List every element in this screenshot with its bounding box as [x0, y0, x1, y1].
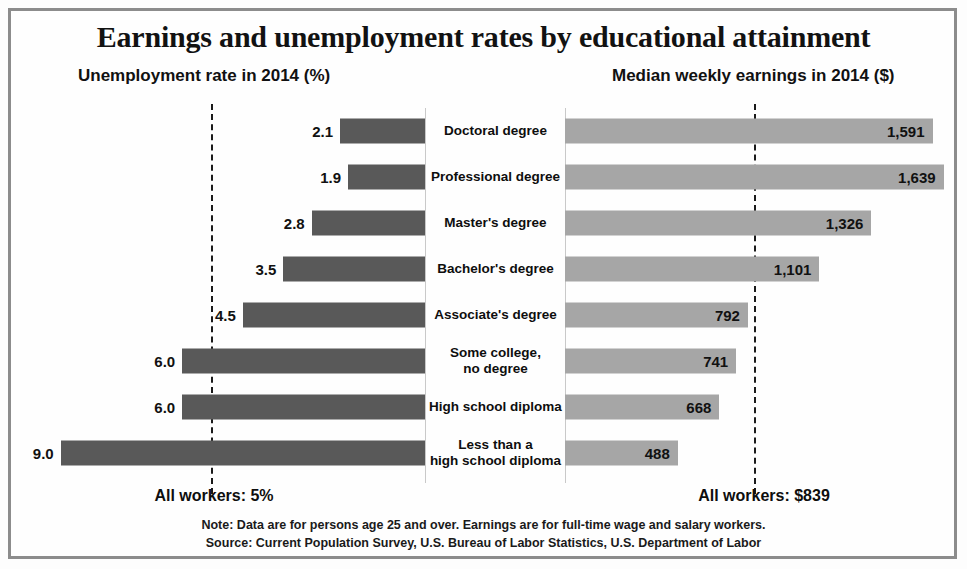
category-label: High school diploma — [426, 384, 565, 430]
chart-row: 9.0Less than ahigh school diploma488 — [0, 430, 967, 476]
unemployment-bar-group: 9.0 — [33, 441, 425, 466]
unemployment-bar — [312, 211, 425, 236]
earnings-bar: 668 — [565, 395, 719, 420]
earnings-bar-track: 741 — [565, 338, 967, 384]
chart-row: 6.0High school diploma668 — [0, 384, 967, 430]
chart-row: 4.5Associate's degree792 — [0, 292, 967, 338]
unemployment-bar — [61, 441, 425, 466]
earnings-value-label: 668 — [686, 399, 711, 416]
footnotes: Note: Data are for persons age 25 and ov… — [0, 516, 967, 552]
all-workers-unemployment-label: All workers: 5% — [154, 487, 273, 505]
earnings-bar-track: 1,101 — [565, 246, 967, 292]
unemployment-value-label: 4.5 — [215, 307, 236, 324]
earnings-value-label: 741 — [703, 353, 728, 370]
unemployment-value-label: 9.0 — [33, 445, 54, 462]
unemployment-bar-track: 2.8 — [0, 200, 425, 246]
category-label: Associate's degree — [426, 292, 565, 338]
unemployment-bar-track: 6.0 — [0, 338, 425, 384]
unemployment-bar-group: 6.0 — [154, 395, 425, 420]
category-label: Master's degree — [426, 200, 565, 246]
category-label: Doctoral degree — [426, 108, 565, 154]
unemployment-bar-group: 2.1 — [312, 119, 425, 144]
earnings-value-label: 1,639 — [898, 169, 936, 186]
unemployment-bar-group: 2.8 — [284, 211, 425, 236]
earnings-bar: 741 — [565, 349, 736, 374]
unemployment-bar-group: 6.0 — [154, 349, 425, 374]
earnings-bar-track: 668 — [565, 384, 967, 430]
earnings-bar-track: 1,591 — [565, 108, 967, 154]
right-axis-heading: Median weekly earnings in 2014 ($) — [612, 66, 895, 86]
unemployment-bar — [348, 165, 425, 190]
footnote-source: Source: Current Population Survey, U.S. … — [0, 534, 967, 552]
earnings-bar-track: 792 — [565, 292, 967, 338]
category-label: Professional degree — [426, 154, 565, 200]
unemployment-value-label: 6.0 — [154, 399, 175, 416]
unemployment-value-label: 6.0 — [154, 353, 175, 370]
unemployment-value-label: 1.9 — [320, 169, 341, 186]
chart-row: 3.5Bachelor's degree1,101 — [0, 246, 967, 292]
earnings-bar: 792 — [565, 303, 748, 328]
footnote-note: Note: Data are for persons age 25 and ov… — [0, 516, 967, 534]
page-title: Earnings and unemployment rates by educa… — [0, 20, 967, 54]
earnings-bar: 1,639 — [565, 165, 944, 190]
unemployment-bar — [182, 349, 425, 374]
unemployment-value-label: 2.8 — [284, 215, 305, 232]
all-workers-earnings-label: All workers: $839 — [698, 487, 830, 505]
unemployment-value-label: 3.5 — [255, 261, 276, 278]
earnings-bar: 1,591 — [565, 119, 933, 144]
unemployment-bar — [283, 257, 425, 282]
chart-rows: 2.1Doctoral degree1,5911.9Professional d… — [0, 108, 967, 476]
earnings-bar: 488 — [565, 441, 678, 466]
earnings-bar-track: 488 — [565, 430, 967, 476]
unemployment-bar — [182, 395, 425, 420]
chart-row: 6.0Some college,no degree741 — [0, 338, 967, 384]
earnings-value-label: 1,326 — [826, 215, 864, 232]
chart-row: 1.9Professional degree1,639 — [0, 154, 967, 200]
category-label: Less than ahigh school diploma — [426, 430, 565, 476]
unemployment-bar-track: 6.0 — [0, 384, 425, 430]
earnings-value-label: 488 — [645, 445, 670, 462]
unemployment-bar — [340, 119, 425, 144]
unemployment-bar-group: 3.5 — [255, 257, 425, 282]
unemployment-value-label: 2.1 — [312, 123, 333, 140]
chart-page: Earnings and unemployment rates by educa… — [0, 0, 967, 569]
unemployment-bar — [243, 303, 425, 328]
unemployment-bar-track: 4.5 — [0, 292, 425, 338]
chart-row: 2.8Master's degree1,326 — [0, 200, 967, 246]
earnings-value-label: 1,101 — [774, 261, 812, 278]
earnings-bar-track: 1,639 — [565, 154, 967, 200]
chart-row: 2.1Doctoral degree1,591 — [0, 108, 967, 154]
unemployment-bar-track: 9.0 — [0, 430, 425, 476]
earnings-value-label: 792 — [715, 307, 740, 324]
left-axis-heading: Unemployment rate in 2014 (%) — [78, 66, 330, 86]
unemployment-bar-track: 3.5 — [0, 246, 425, 292]
earnings-bar-track: 1,326 — [565, 200, 967, 246]
earnings-value-label: 1,591 — [887, 123, 925, 140]
earnings-bar: 1,326 — [565, 211, 871, 236]
category-label: Some college,no degree — [426, 338, 565, 384]
earnings-bar: 1,101 — [565, 257, 819, 282]
unemployment-bar-track: 2.1 — [0, 108, 425, 154]
unemployment-bar-group: 1.9 — [320, 165, 425, 190]
unemployment-bar-track: 1.9 — [0, 154, 425, 200]
category-label: Bachelor's degree — [426, 246, 565, 292]
unemployment-bar-group: 4.5 — [215, 303, 425, 328]
